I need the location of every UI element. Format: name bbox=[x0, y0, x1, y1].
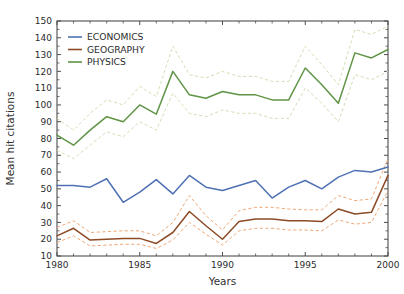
y-tick-label: 30 bbox=[41, 218, 53, 228]
y-tick-label: 40 bbox=[41, 201, 53, 211]
y-tick-label: 60 bbox=[41, 167, 53, 177]
y-tick-label: 80 bbox=[41, 134, 53, 144]
chart-figure: 1020304050607080901001101201301401501980… bbox=[0, 0, 404, 294]
ci-band-geography-upper bbox=[57, 159, 388, 236]
x-axis-title: Years bbox=[208, 275, 237, 287]
x-tick-label: 1985 bbox=[128, 260, 151, 270]
x-tick-label: 2000 bbox=[377, 260, 400, 270]
x-tick-label: 1980 bbox=[46, 260, 69, 270]
line-chart: 1020304050607080901001101201301401501980… bbox=[0, 0, 404, 294]
legend-label-physics: PHYSICS bbox=[87, 56, 126, 67]
series-line-geography bbox=[57, 175, 388, 243]
x-tick-label: 1995 bbox=[294, 260, 317, 270]
y-tick-label: 50 bbox=[41, 184, 53, 194]
y-tick-label: 150 bbox=[35, 16, 52, 26]
y-axis-title: Mean hit citations bbox=[4, 92, 16, 186]
y-tick-label: 140 bbox=[35, 33, 52, 43]
y-tick-label: 100 bbox=[35, 100, 52, 110]
x-tick-label: 1990 bbox=[211, 260, 234, 270]
y-tick-label: 130 bbox=[35, 50, 52, 60]
y-tick-label: 110 bbox=[35, 83, 52, 93]
y-tick-label: 20 bbox=[41, 234, 53, 244]
y-tick-label: 70 bbox=[41, 150, 53, 160]
legend-label-economics: ECONOMICS bbox=[87, 31, 144, 42]
y-tick-label: 90 bbox=[41, 117, 53, 127]
legend-label-geography: GEOGRAPHY bbox=[87, 44, 145, 55]
y-tick-label: 120 bbox=[35, 67, 52, 77]
series-line-economics bbox=[57, 167, 388, 202]
